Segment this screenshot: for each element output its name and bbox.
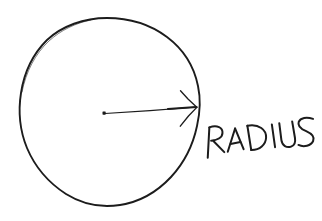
letter-D [247,124,267,150]
letter-U [279,121,296,147]
circle-outline [20,18,200,206]
circle-outline-retrace [22,20,91,92]
letter-R [205,126,225,158]
letter-A [226,128,244,152]
sketch-canvas: RADIUS circle Radius Diagram [0,0,322,221]
radius-diagram [0,0,322,221]
letter-I [272,124,275,147]
arrowhead-upper-barb [181,91,197,107]
radius-line-thickening [168,107,197,109]
arrowhead-lower-barb [180,107,197,126]
radius-label-handwriting [205,117,316,158]
letter-S [296,117,316,147]
